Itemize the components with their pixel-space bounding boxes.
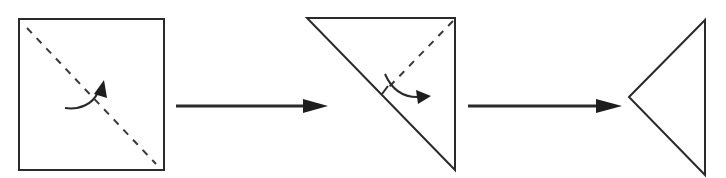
fold-line bbox=[386, 21, 453, 90]
step-2-triangle bbox=[307, 18, 455, 170]
fold-arrow-icon bbox=[385, 74, 431, 104]
step-1-square bbox=[19, 19, 164, 170]
fold-sequence-diagram bbox=[0, 0, 726, 178]
diagonal-fold-line bbox=[27, 28, 156, 164]
result-triangle-outline bbox=[629, 20, 705, 175]
step-3-triangle bbox=[629, 20, 705, 175]
crease-tick bbox=[382, 86, 388, 94]
arrow-right-icon bbox=[176, 99, 328, 113]
fold-arrow-icon bbox=[65, 80, 107, 108]
arrow-right-icon bbox=[468, 99, 622, 113]
